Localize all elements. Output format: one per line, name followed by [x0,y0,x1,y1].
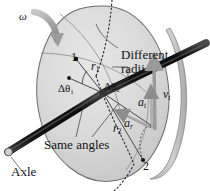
delta-theta-2-subscript: 2 [116,86,119,93]
axle-label: Axle [11,165,36,178]
point-1-initial-marker [67,76,71,80]
delta-theta-2-symbol: Δθ [104,80,116,92]
omega-label: ω [19,11,27,22]
delta-theta-1-label: Δθ1 [58,83,74,95]
velocity-vector [154,62,155,130]
radius-2-subscript: 2 [118,127,122,136]
a-r-subscript: r [130,122,133,131]
delta-theta-1-symbol: Δθ [58,82,70,94]
a-t-subscript: t [144,101,146,110]
rotational-motion-figure: ω 1 2 r1 r2 Δθ1 Δθ2 Different radii Same… [0,0,210,191]
velocity-label: vt [163,88,170,101]
figure-canvas [0,0,210,191]
tangential-acceleration-label: at [138,96,146,109]
same-angles-label: Same angles [44,138,109,151]
point-1-label: 1 [71,51,77,63]
different-radii-line-1: Different [121,48,168,61]
axle-end-cap [5,148,13,156]
different-radii-line-2: radii [121,62,145,75]
v-t-subscript: t [168,93,170,102]
point-2-label: 2 [143,160,149,172]
delta-theta-2-label: Δθ2 [104,81,120,93]
radial-acceleration-label: ar [124,117,133,130]
radius-2-label: r2 [113,122,121,135]
delta-theta-1-subscript: 1 [70,88,73,95]
radius-1-subscript: 1 [96,65,100,74]
radius-1-label: r1 [91,60,99,73]
tangential-acceleration-vector [151,92,152,128]
